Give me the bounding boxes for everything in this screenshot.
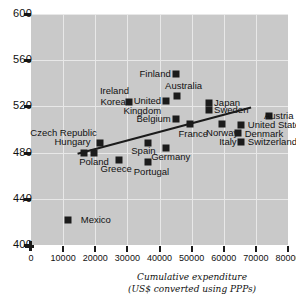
data-point-marker [206, 99, 213, 106]
data-point-label: Italy [219, 137, 236, 147]
gridline-horizontal [31, 199, 288, 200]
x-axis-tick [159, 246, 161, 252]
y-axis-tick-label: 440 [13, 192, 32, 204]
gridline-vertical [127, 14, 128, 245]
data-point-marker [172, 116, 179, 123]
x-axis-tick [62, 246, 64, 252]
data-point-marker [64, 216, 71, 223]
data-point-label: Sweden [214, 105, 248, 115]
data-point-label: Denmark [245, 129, 284, 139]
data-point-label: Czech Republic [30, 128, 97, 138]
data-point-label: France [178, 129, 208, 139]
y-axis-tick-label: 480 [13, 146, 32, 158]
x-axis-tick-label: 30000 [115, 253, 140, 263]
x-axis-tick-label: 20000 [83, 253, 108, 263]
x-axis-tick [223, 246, 225, 252]
x-axis-tick [255, 246, 257, 252]
data-point-marker [97, 140, 104, 147]
data-point-label: Mexico [81, 215, 111, 225]
scatter-chart: 4004404805205606000100002000030000400005… [0, 0, 296, 299]
x-axis-tick-label: 70000 [243, 253, 268, 263]
gridline-horizontal [31, 14, 288, 15]
data-point-label: Australia [165, 81, 202, 91]
data-point-label: Korea [100, 97, 125, 107]
data-point-marker [172, 71, 179, 78]
y-axis-tick-label: 560 [13, 53, 32, 65]
x-axis-tick-label: 40000 [147, 253, 172, 263]
data-point-label: Ireland [100, 86, 129, 96]
data-point-marker [162, 97, 169, 104]
data-point-marker [238, 139, 245, 146]
data-point-marker [238, 121, 245, 128]
origin-tick-vertical [29, 241, 32, 251]
data-point-label: Belgium [136, 114, 170, 124]
data-point-marker [187, 120, 194, 127]
data-point-label: Germany [151, 152, 190, 162]
x-axis-caption-line1: Cumulative expenditure [92, 271, 292, 283]
data-point-marker [206, 106, 213, 113]
gridline-horizontal [31, 60, 288, 61]
data-point-label: Finland [140, 69, 171, 79]
x-axis-tick [287, 246, 289, 252]
x-axis-caption-line2: (US$ converted using PPPs) [92, 283, 292, 295]
data-point-label: Hungary [55, 137, 91, 147]
x-axis-tick-label: 0 [28, 253, 33, 263]
gridline-vertical [160, 14, 161, 245]
x-axis-tick-label: 50000 [179, 253, 204, 263]
data-point-marker [174, 93, 181, 100]
x-axis-caption: Cumulative expenditure (US$ converted us… [92, 271, 292, 295]
y-axis-tick-label: 520 [13, 99, 32, 111]
x-axis-tick [126, 246, 128, 252]
x-axis-tick-label: 10000 [51, 253, 76, 263]
data-point-label: Greece [101, 164, 132, 174]
y-axis-tick-label: 600 [13, 7, 32, 19]
x-axis-tick-label: 60000 [211, 253, 236, 263]
x-axis-tick [191, 246, 193, 252]
data-point-marker [90, 149, 97, 156]
data-point-label: Portugal [134, 167, 169, 177]
data-point-label: United States [248, 120, 296, 130]
data-point-label: Austria [264, 111, 294, 121]
x-axis-tick [94, 246, 96, 252]
x-axis-tick-label: 80000 [275, 253, 296, 263]
data-point-marker [235, 129, 242, 136]
